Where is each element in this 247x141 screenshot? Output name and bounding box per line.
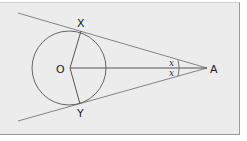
tangent-line-ax (18, 13, 207, 68)
label-a: A (210, 63, 218, 76)
radius-ox (70, 31, 81, 68)
label-x: X (77, 17, 85, 30)
label-y: Y (76, 107, 84, 120)
tangent-diagram: X O Y A x x (0, 0, 247, 141)
angle-label-lower: x (169, 68, 174, 78)
label-o: O (56, 63, 65, 76)
radius-oy (70, 68, 80, 104)
angle-label-upper: x (169, 58, 174, 68)
tangent-line-ay (18, 68, 207, 121)
